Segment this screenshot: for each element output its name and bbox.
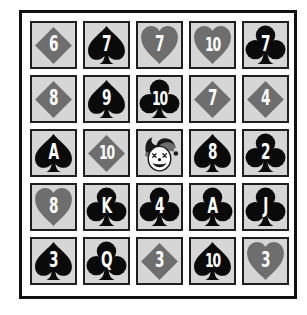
card-rank: 10	[199, 249, 226, 271]
card-rank: 4	[146, 195, 173, 217]
card-rank: 6	[40, 33, 67, 55]
card-rank: 7	[252, 33, 279, 55]
card-rank: 10	[93, 141, 120, 163]
card-rank: K	[93, 195, 120, 217]
card-rank: 7	[146, 33, 173, 55]
card-club-J[interactable]: J	[242, 183, 289, 231]
card-heart-8[interactable]: 8	[30, 183, 77, 231]
card-rank: 8	[199, 141, 226, 163]
card-club-Q[interactable]: Q	[83, 237, 130, 285]
card-club-2[interactable]: 2	[242, 129, 289, 177]
card-rank: A	[199, 195, 226, 217]
joker-icon	[138, 131, 181, 175]
card-spade-7[interactable]: 7	[83, 21, 130, 69]
card-heart-10[interactable]: 10	[189, 21, 236, 69]
card-diamond-10[interactable]: 10	[83, 129, 130, 177]
card-rank: 10	[146, 87, 173, 109]
card-rank: J	[252, 195, 279, 217]
card-heart-7[interactable]: 7	[136, 21, 183, 69]
card-club-A[interactable]: A	[189, 183, 236, 231]
game-board: 677107891074A10 828K4AJ3Q3103	[19, 10, 297, 299]
card-heart-3[interactable]: 3	[242, 237, 289, 285]
card-club-10[interactable]: 10	[136, 75, 183, 123]
card-spade-10[interactable]: 10	[189, 237, 236, 285]
card-club-K[interactable]: K	[83, 183, 130, 231]
card-club-4[interactable]: 4	[136, 183, 183, 231]
card-rank: 7	[93, 33, 120, 55]
card-club-7[interactable]: 7	[242, 21, 289, 69]
card-spade-A[interactable]: A	[30, 129, 77, 177]
card-rank: 4	[252, 87, 279, 109]
card-joker[interactable]	[136, 129, 183, 177]
card-diamond-6[interactable]: 6	[30, 21, 77, 69]
card-rank: 3	[40, 249, 67, 271]
card-rank: A	[40, 141, 67, 163]
card-diamond-7[interactable]: 7	[189, 75, 236, 123]
card-rank: 8	[40, 87, 67, 109]
card-rank: 2	[252, 141, 279, 163]
card-rank: Q	[93, 249, 120, 271]
card-diamond-4[interactable]: 4	[242, 75, 289, 123]
card-spade-9[interactable]: 9	[83, 75, 130, 123]
card-spade-3[interactable]: 3	[30, 237, 77, 285]
card-diamond-8[interactable]: 8	[30, 75, 77, 123]
card-rank: 8	[40, 195, 67, 217]
card-rank: 3	[146, 249, 173, 271]
card-rank: 9	[93, 87, 120, 109]
card-rank: 10	[199, 33, 226, 55]
card-grid: 677107891074A10 828K4AJ3Q3103	[30, 21, 289, 285]
card-diamond-3[interactable]: 3	[136, 237, 183, 285]
card-spade-8[interactable]: 8	[189, 129, 236, 177]
card-rank: 3	[252, 249, 279, 271]
card-rank: 7	[199, 87, 226, 109]
